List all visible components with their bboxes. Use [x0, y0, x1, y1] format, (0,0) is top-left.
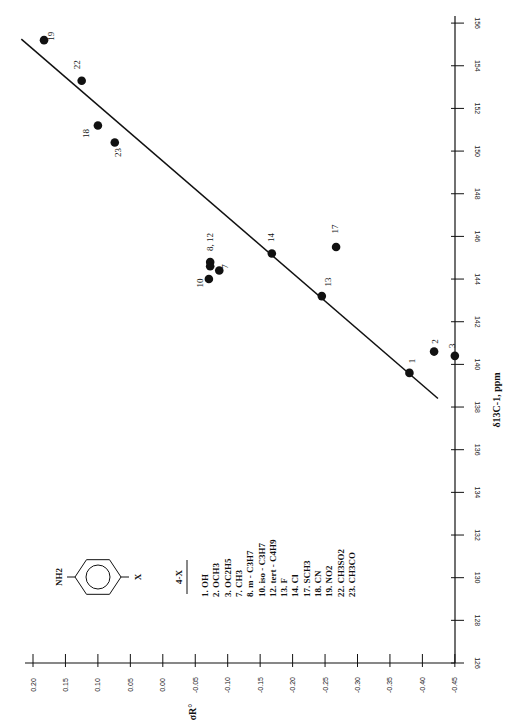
data-point — [405, 369, 414, 378]
sigma-tick-label: -0.15 — [257, 677, 264, 693]
legend-entry: 3. OC2H5 — [223, 558, 233, 597]
ppm-tick-label: 152 — [474, 103, 481, 115]
legend-entry: 18. CN — [313, 570, 323, 597]
data-point — [110, 138, 119, 147]
sigma-tick-label: -0.35 — [386, 677, 393, 693]
data-point — [94, 121, 103, 130]
ppm-tick-label: 154 — [474, 60, 481, 72]
legend-entry: 8. m - C3H7 — [245, 550, 255, 597]
data-point — [205, 275, 214, 284]
legend-entry: 23. CH3CO — [347, 552, 357, 597]
sigma-tick-label: -0.20 — [289, 677, 296, 693]
sigma-tick-label: -0.45 — [451, 677, 458, 693]
sigma-tick-label: 0.00 — [159, 678, 166, 692]
legend-entry: 12. tert - C4H9 — [268, 539, 278, 597]
legend-entry: 14. Cl — [290, 574, 300, 597]
data-point — [332, 243, 341, 252]
legend: NH2X4-X1. OH2. OCH33. OC2H57. CH38. m - … — [54, 539, 357, 597]
ppm-tick-label: 126 — [474, 657, 481, 669]
data-point-label: 7 — [220, 264, 230, 269]
data-point-label: 10 — [195, 278, 205, 288]
data-point — [318, 292, 327, 301]
legend-entry: 22. CH3SO2 — [336, 548, 346, 597]
ppm-tick-label: 156 — [474, 17, 481, 29]
ppm-tick-label: 146 — [474, 231, 481, 243]
data-point-label: 18 — [81, 128, 91, 138]
scatter-chart: 1261281301321341361381401421441461481501… — [0, 0, 509, 725]
sigma-tick-label: -0.25 — [322, 677, 329, 693]
data-point — [268, 249, 277, 258]
ppm-tick-label: 132 — [474, 529, 481, 541]
ppm-tick-label: 138 — [474, 401, 481, 413]
sigma-tick-label: 0.15 — [62, 678, 69, 692]
data-point-label: 2 — [430, 339, 440, 344]
legend-entry: 13. F — [279, 578, 289, 598]
ppm-tick-label: 150 — [474, 145, 481, 157]
data-point-label: 13 — [323, 277, 333, 287]
ppm-tick-label: 128 — [474, 614, 481, 626]
sigma-tick-label: -0.40 — [419, 677, 426, 693]
legend-entry: 1. OH — [200, 574, 210, 597]
legend-entry: 17. SCH3 — [302, 560, 312, 597]
legend-entry: 2. OCH3 — [211, 562, 221, 597]
data-point-label: 14 — [266, 232, 276, 242]
substituent-x: X — [133, 573, 143, 580]
data-point-label: 23 — [113, 148, 123, 158]
ppm-tick-label: 140 — [474, 359, 481, 371]
data-point-label: 8, 12 — [205, 233, 215, 251]
data-point — [430, 347, 439, 356]
data-point — [451, 352, 460, 361]
sigma-tick-label: 0.10 — [94, 678, 101, 692]
ppm-tick-label: 142 — [474, 316, 481, 328]
legend-entry: 19. NO2 — [324, 565, 334, 597]
sigma-tick-label: -0.05 — [192, 677, 199, 693]
sigma-tick-label: 0.20 — [30, 678, 37, 692]
ppm-tick-label: 144 — [474, 273, 481, 285]
data-point-label: 17 — [330, 224, 340, 234]
substituent-nh2: NH2 — [54, 568, 64, 587]
sigma-axis-title: σR° — [187, 704, 198, 721]
data-point-label: 19 — [46, 31, 56, 41]
ppm-tick-label: 136 — [474, 444, 481, 456]
sigma-tick-label: 0.05 — [127, 678, 134, 692]
ppm-tick-label: 148 — [474, 188, 481, 200]
regression-line — [21, 39, 438, 398]
aromatic-circle-icon — [86, 565, 110, 589]
sigma-tick-label: -0.10 — [224, 677, 231, 693]
legend-entry: 7. CH3 — [234, 570, 244, 598]
data-point-label: 1 — [407, 359, 417, 364]
sigma-tick-label: -0.30 — [354, 677, 361, 693]
data-point-label: 22 — [72, 60, 82, 69]
data-point — [206, 262, 215, 271]
fit-line — [21, 39, 438, 398]
legend-title: 4-X — [174, 570, 184, 584]
data-point — [77, 76, 86, 85]
legend-entry: 10. iso - C3H7 — [257, 543, 267, 598]
ppm-tick-label: 130 — [474, 572, 481, 584]
data-points: 12378, 121013141718192223 — [40, 31, 459, 377]
ppm-axis-title: δ13C-1, ppm — [491, 372, 502, 428]
data-point-label: 3 — [447, 343, 457, 348]
ppm-tick-label: 134 — [474, 487, 481, 499]
